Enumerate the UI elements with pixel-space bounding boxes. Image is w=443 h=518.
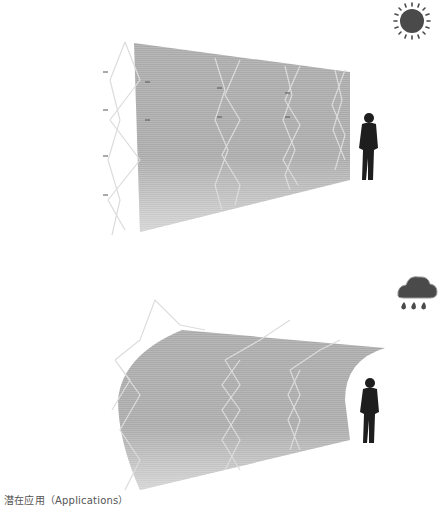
sun-icon <box>394 3 430 39</box>
person-silhouette-bottom <box>360 378 379 443</box>
applications-caption: 潜在应用（Applications） <box>4 492 129 507</box>
illustration <box>0 0 443 518</box>
curved-canopy-structure <box>112 300 385 490</box>
person-silhouette-top <box>359 113 378 180</box>
rain-cloud-icon <box>398 277 437 310</box>
flat-wall-structure <box>103 42 350 235</box>
